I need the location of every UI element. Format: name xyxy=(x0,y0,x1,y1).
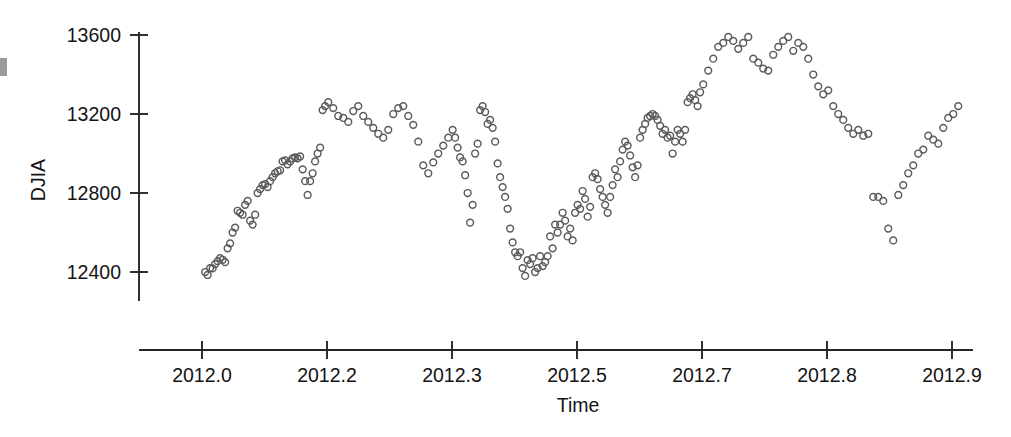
data-point xyxy=(567,225,574,232)
data-point xyxy=(440,142,447,149)
data-point xyxy=(810,71,817,78)
data-point xyxy=(935,140,942,147)
data-point xyxy=(562,217,569,224)
data-point xyxy=(494,160,501,167)
data-point xyxy=(504,205,511,212)
data-point xyxy=(502,194,509,201)
data-point xyxy=(307,178,314,185)
data-point xyxy=(825,87,832,94)
data-point xyxy=(554,229,561,236)
data-point xyxy=(425,170,432,177)
data-point xyxy=(355,103,362,110)
data-point xyxy=(770,51,777,58)
data-point xyxy=(519,265,526,272)
data-point xyxy=(454,144,461,151)
data-point xyxy=(614,174,621,181)
data-point xyxy=(499,184,506,191)
data-point xyxy=(745,34,752,41)
data-point xyxy=(785,34,792,41)
data-point xyxy=(955,103,962,110)
data-point xyxy=(597,186,604,193)
data-point xyxy=(672,138,679,145)
data-point xyxy=(607,194,614,201)
y-axis-tick-label: 12800 xyxy=(67,182,121,204)
data-point xyxy=(885,225,892,232)
x-axis: 2012.02012.22012.32012.52012.72012.82012… xyxy=(140,341,982,386)
data-point xyxy=(559,209,566,216)
data-point xyxy=(735,45,742,52)
data-point xyxy=(345,119,352,126)
data-point xyxy=(669,150,676,157)
x-axis-tick-label: 2012.3 xyxy=(422,364,482,386)
data-point xyxy=(469,201,476,208)
data-point xyxy=(805,55,812,62)
data-point xyxy=(880,198,887,205)
data-point xyxy=(579,188,586,195)
data-point xyxy=(309,170,316,177)
data-point xyxy=(730,38,737,45)
data-point xyxy=(694,103,701,110)
data-point xyxy=(462,172,469,179)
data-point xyxy=(405,113,412,120)
data-point xyxy=(775,43,782,50)
data-point xyxy=(410,121,417,128)
data-point xyxy=(420,162,427,169)
data-point xyxy=(445,134,452,141)
data-point xyxy=(890,237,897,244)
data-point xyxy=(617,158,624,165)
data-point xyxy=(790,47,797,54)
data-point xyxy=(380,134,387,141)
y-axis-tick-label: 13200 xyxy=(67,103,121,125)
data-point xyxy=(304,192,311,199)
data-point xyxy=(800,43,807,50)
data-point xyxy=(464,190,471,197)
data-point xyxy=(609,182,616,189)
data-point xyxy=(679,138,686,145)
data-point xyxy=(905,170,912,177)
data-point xyxy=(549,245,556,252)
data-point xyxy=(497,174,504,181)
data-point xyxy=(705,67,712,74)
data-point xyxy=(612,166,619,173)
data-point xyxy=(599,194,606,201)
data-point xyxy=(584,213,591,220)
data-point xyxy=(385,126,392,133)
data-point xyxy=(415,138,422,145)
x-axis-tick-label: 2012.9 xyxy=(922,364,982,386)
y-axis-title: DJIA xyxy=(27,159,49,201)
data-point xyxy=(632,174,639,181)
data-point xyxy=(895,192,902,199)
data-point xyxy=(435,150,442,157)
data-point xyxy=(522,273,529,280)
x-axis-tick-label: 2012.5 xyxy=(547,364,607,386)
data-point xyxy=(507,225,514,232)
data-point xyxy=(602,201,609,208)
data-point xyxy=(910,162,917,169)
data-point xyxy=(452,134,459,141)
data-point xyxy=(604,209,611,216)
data-point xyxy=(569,237,576,244)
data-point xyxy=(855,126,862,133)
data-point xyxy=(370,124,377,131)
data-point xyxy=(940,124,947,131)
data-point xyxy=(299,166,306,173)
x-axis-tick-label: 2012.8 xyxy=(797,364,857,386)
x-axis-tick-label: 2012.0 xyxy=(172,364,232,386)
data-point xyxy=(317,144,324,151)
data-point xyxy=(537,253,544,260)
plot-canvas: 12400128001320013600 2012.02012.22012.32… xyxy=(0,0,1011,437)
data-point xyxy=(492,138,499,145)
data-point xyxy=(430,159,437,166)
data-point xyxy=(682,126,689,133)
data-point xyxy=(920,146,927,153)
data-point xyxy=(755,59,762,66)
data-point xyxy=(950,111,957,118)
data-point xyxy=(900,182,907,189)
data-point xyxy=(845,124,852,131)
data-point xyxy=(365,119,372,126)
data-point xyxy=(449,126,456,133)
data-point xyxy=(582,196,589,203)
data-point xyxy=(390,111,397,118)
data-point xyxy=(710,55,717,62)
data-point xyxy=(697,89,704,96)
